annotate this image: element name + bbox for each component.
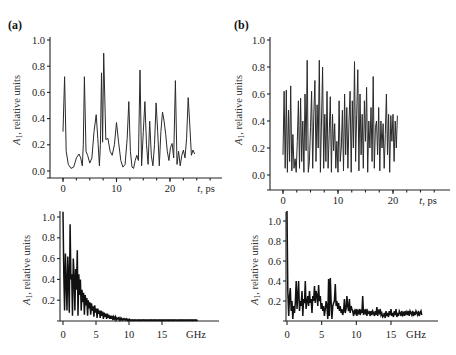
y-tick-label: 0.4: [252, 116, 266, 127]
x-tick-label: 10: [333, 195, 344, 206]
data-series: [283, 60, 397, 172]
x-tick-label: 10: [111, 183, 122, 194]
y-tick-label: 1.0: [268, 216, 281, 227]
x-tick-label: 20: [388, 195, 399, 206]
y-tick-label: 0.8: [252, 62, 265, 73]
data-series: [63, 212, 198, 321]
y-tick-label: 0.6: [42, 253, 55, 264]
y-tick-label: 0.4: [32, 113, 46, 124]
x-tick-label: 10: [124, 329, 135, 340]
y-tick-label: 0.0: [32, 166, 45, 177]
y-tick-label: 0.6: [252, 89, 265, 100]
plot-b-time-series: 0.00.20.40.60.81.001020t, psA1, relative…: [233, 35, 450, 207]
y-tick-label: 0.2: [32, 139, 45, 150]
x-axis-label: GHz: [186, 329, 206, 340]
y-axis-label: A1, relative units: [11, 75, 24, 146]
figure-canvas: (a) (b) 0.00.20.40.60.81.001020t, psA1, …: [0, 0, 456, 355]
x-tick-label: 10: [351, 329, 362, 340]
x-axis-label: GHz: [406, 329, 426, 340]
x-tick-label: 0: [60, 183, 65, 194]
x-tick-label: 15: [157, 329, 168, 340]
data-series: [287, 211, 422, 319]
data-series: [63, 53, 195, 168]
y-tick-label: 0.6: [32, 87, 45, 98]
y-tick-label: 0.2: [268, 296, 281, 307]
y-tick-label: 0.8: [32, 61, 45, 72]
y-tick-label: 0.4: [42, 274, 56, 285]
panel-label-a: (a): [8, 18, 22, 32]
y-tick-label: 0.2: [252, 143, 265, 154]
y-axis-label: A1, relative units: [21, 235, 34, 306]
y-axis-label: A1, relative units: [249, 235, 262, 306]
plot-b-spectrum: 0.20.40.60.81.0051015GHzA1, relative uni…: [249, 211, 438, 340]
x-tick-label: 0: [284, 329, 289, 340]
y-tick-label: 0.0: [252, 170, 265, 181]
x-tick-label: 20: [165, 183, 176, 194]
x-tick-label: 5: [319, 329, 324, 340]
y-tick-label: 0.2: [42, 295, 55, 306]
y-tick-label: 0.8: [268, 236, 281, 247]
x-tick-label: 0: [280, 195, 285, 206]
x-tick-label: 5: [93, 329, 98, 340]
y-tick-label: 0.8: [42, 232, 55, 243]
plot-a-time-series: 0.00.20.40.60.81.001020t, psA1, relative…: [11, 35, 222, 195]
y-tick-label: 0.4: [268, 276, 282, 287]
y-tick-label: 1.0: [32, 35, 45, 46]
y-tick-label: 1.0: [42, 212, 55, 223]
x-axis-label: t, ps: [197, 183, 215, 194]
plot-a-spectrum: 0.20.40.60.81.0051015GHzA1, relative uni…: [21, 211, 219, 340]
y-axis-label: A1, relative units: [233, 75, 246, 146]
y-tick-label: 1.0: [252, 35, 265, 46]
x-axis-label: t, ps: [419, 195, 437, 206]
panel-label-b: (b): [234, 18, 249, 32]
x-tick-label: 0: [60, 329, 65, 340]
x-tick-label: 15: [386, 329, 397, 340]
y-tick-label: 0.6: [268, 256, 281, 267]
